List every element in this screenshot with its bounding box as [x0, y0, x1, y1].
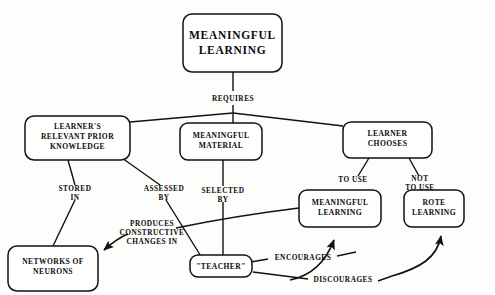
node-meaningful-learning-root[interactable]: MEANINGFUL LEARNING	[183, 14, 282, 72]
node-label-line: MEANINGFUL	[312, 198, 369, 207]
node-label-line: MEANINGFUL	[193, 131, 250, 140]
node-label-line: RELEVANT PRIOR	[41, 132, 114, 141]
node-teacher[interactable]: "TEACHER"	[190, 255, 252, 277]
edge-label-produces-constructive-changes-in: CONSTRUCTIVE	[120, 228, 185, 237]
edge-label-produces-constructive-changes-in: CHANGES IN	[126, 237, 177, 246]
concept-map-canvas: MEANINGFUL LEARNING LEARNER'S RELEVANT P…	[0, 0, 495, 295]
node-meaningful-learning-outcome[interactable]: MEANINGFUL LEARNING	[299, 190, 381, 227]
edge-label-requires: REQUIRES	[212, 94, 254, 103]
concept-map-svg: MEANINGFUL LEARNING LEARNER'S RELEVANT P…	[0, 0, 495, 295]
edge-label-selected-by: BY	[217, 195, 228, 204]
edge-stored-in	[53, 160, 75, 246]
edge-label-discourages: DISCOURAGES	[313, 275, 372, 284]
edge-label-stored-in: STORED	[59, 184, 92, 193]
node-label-line: LEARNER'S	[54, 122, 101, 131]
edge-label-produces-constructive-changes-in: PRODUCES	[130, 219, 174, 228]
node-networks-of-neurons[interactable]: NETWORKS OF NEURONS	[8, 246, 98, 291]
node-label-line: MEANINGFUL	[189, 29, 276, 41]
edge-label-to-use: TO USE	[338, 175, 367, 184]
node-label-line: LEARNING	[318, 208, 362, 217]
node-label-line: LEARNING	[412, 208, 456, 217]
edge-label-encourages: ENCOURAGES	[275, 253, 332, 262]
edge-label-assessed-by: ASSESSED	[144, 184, 185, 193]
node-label-line: NETWORKS OF	[22, 257, 84, 266]
node-label-line: ROTE	[422, 198, 445, 207]
edge-label-stored-in: IN	[70, 193, 79, 202]
edge-label-selected-by: SELECTED	[202, 186, 245, 195]
edge-label-not-to-use: TO USE	[405, 183, 434, 192]
node-label-line: LEARNING	[199, 44, 267, 56]
node-rote-learning[interactable]: ROTE LEARNING	[404, 190, 464, 227]
node-label-line: KNOWLEDGE	[50, 142, 105, 151]
edge-label-not-to-use: NOT	[411, 174, 428, 183]
edge-label-assessed-by: BY	[158, 193, 169, 202]
node-learner-chooses[interactable]: LEARNER CHOOSES	[343, 122, 432, 158]
node-label-line: MATERIAL	[199, 141, 243, 150]
node-label-line: NEURONS	[33, 267, 73, 276]
node-learners-relevant-prior-knowledge[interactable]: LEARNER'S RELEVANT PRIOR KNOWLEDGE	[25, 116, 130, 160]
node-label-line: "TEACHER"	[196, 262, 246, 271]
node-label-line: LEARNER	[368, 129, 408, 138]
node-label-line: CHOOSES	[368, 139, 408, 148]
node-meaningful-material[interactable]: MEANINGFUL MATERIAL	[180, 123, 262, 160]
